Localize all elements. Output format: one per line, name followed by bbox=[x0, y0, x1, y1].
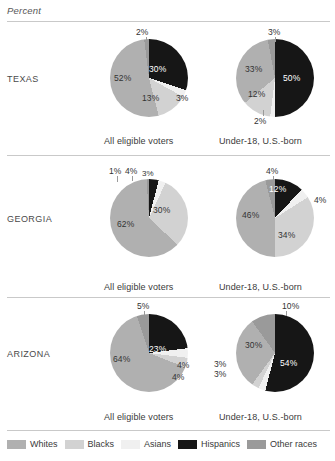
slice-label-asians: 3% bbox=[176, 93, 189, 103]
legend-swatch-asians bbox=[121, 440, 140, 449]
slice-label-blacks: 12% bbox=[248, 89, 265, 99]
column-caption-all-eligible-voters: All eligible voters bbox=[104, 136, 173, 146]
slice-label-whites: 64% bbox=[113, 354, 130, 364]
legend-label-other-races: Other races bbox=[270, 439, 317, 449]
slice-label-blacks: 34% bbox=[278, 230, 295, 240]
divider-legend bbox=[7, 430, 330, 431]
legend-item-other-races: Other races bbox=[247, 439, 317, 449]
slice-label-whites: 33% bbox=[245, 64, 262, 74]
legend-swatch-other-races bbox=[247, 440, 266, 449]
slice-label-other-races: 2% bbox=[136, 27, 149, 37]
column-caption-under-18-us-born: Under-18, U.S.-born bbox=[219, 136, 302, 146]
slice-label-hispanics: 50% bbox=[283, 73, 300, 83]
panel-georgia-under-18-us-born: 12% 4% 34% 46% 4% Under-18, U.S.-born bbox=[212, 167, 335, 267]
slice-label-whites: 52% bbox=[114, 73, 131, 83]
legend: Whites Blacks Asians Hispanics Other rac… bbox=[7, 437, 324, 451]
column-caption-all-eligible-voters: All eligible voters bbox=[104, 412, 173, 422]
leader-line-hispanics bbox=[132, 176, 133, 181]
slice-label-other-races: 3% bbox=[268, 27, 281, 37]
chart-row-georgia: GEORGIA 4% 3% 30% 62% 1% All eligible vo… bbox=[0, 156, 335, 297]
pie-chart-figure: Percent TEXAS 30% 3% 13% 52% 2% All elig… bbox=[0, 0, 335, 461]
row-label-arizona: ARIZONA bbox=[7, 349, 50, 359]
slice-label-other-races: 4% bbox=[266, 166, 279, 176]
legend-swatch-blacks bbox=[65, 440, 84, 449]
leader-line-other-races bbox=[117, 176, 118, 182]
slice-label-hispanics: 54% bbox=[280, 358, 297, 368]
slice-label-asians: 4% bbox=[177, 360, 190, 370]
row-label-georgia: GEORGIA bbox=[7, 214, 52, 224]
slice-label-hispanics: 30% bbox=[149, 64, 166, 74]
chart-row-arizona: ARIZONA 23% 4% 4% 64% 5% All eligible vo… bbox=[0, 298, 335, 430]
leader-line-other-races bbox=[146, 37, 147, 43]
column-caption-under-18-us-born: Under-18, U.S.-born bbox=[219, 282, 302, 292]
slice-label-other-races: 1% bbox=[109, 166, 122, 176]
slice-label-asians: 3% bbox=[142, 169, 154, 178]
chart-row-texas: TEXAS 30% 3% 13% 52% 2% All eligible vot… bbox=[0, 22, 335, 155]
leader-line-other-races bbox=[286, 311, 287, 316]
legend-item-whites: Whites bbox=[7, 439, 58, 449]
unit-label: Percent bbox=[7, 5, 41, 16]
column-caption-under-18-us-born: Under-18, U.S.-born bbox=[219, 412, 302, 422]
leader-line-other-races bbox=[273, 176, 274, 181]
slice-label-other-races: 5% bbox=[137, 301, 150, 311]
legend-item-hispanics: Hispanics bbox=[178, 439, 240, 449]
slice-label-whites: 30% bbox=[245, 340, 262, 350]
panel-georgia-all-eligible-voters: 4% 3% 30% 62% 1% All eligible voters bbox=[92, 167, 210, 267]
slice-label-hispanics: 23% bbox=[149, 344, 166, 354]
slice-label-blacks: 13% bbox=[142, 93, 159, 103]
leader-line-other-races bbox=[275, 37, 276, 42]
slice-label-blacks: 30% bbox=[153, 205, 170, 215]
slice-label-asians: 3% bbox=[214, 369, 227, 379]
legend-item-asians: Asians bbox=[121, 439, 171, 449]
column-caption-all-eligible-voters: All eligible voters bbox=[104, 282, 173, 292]
legend-label-hispanics: Hispanics bbox=[201, 439, 240, 449]
panel-arizona-under-18-us-born: 54% 3% 3% 30% 10% Under-18, U.S.-born bbox=[212, 302, 335, 402]
pie-georgia-all-eligible-voters bbox=[110, 179, 188, 257]
slice-label-whites: 62% bbox=[117, 219, 134, 229]
legend-label-asians: Asians bbox=[144, 439, 171, 449]
legend-swatch-whites bbox=[7, 440, 26, 449]
slice-label-blacks: 3% bbox=[214, 359, 227, 369]
panel-arizona-all-eligible-voters: 23% 4% 4% 64% 5% All eligible voters bbox=[92, 302, 210, 402]
slice-label-asians: 2% bbox=[254, 116, 267, 126]
leader-line-asians bbox=[263, 110, 264, 116]
legend-label-whites: Whites bbox=[30, 439, 58, 449]
legend-label-blacks: Blacks bbox=[88, 439, 115, 449]
legend-swatch-hispanics bbox=[178, 440, 197, 449]
panel-texas-all-eligible-voters: 30% 3% 13% 52% 2% All eligible voters bbox=[92, 27, 210, 127]
row-label-texas: TEXAS bbox=[7, 74, 39, 84]
legend-item-blacks: Blacks bbox=[65, 439, 115, 449]
leader-line-other-races bbox=[144, 311, 145, 317]
panel-texas-under-18-us-born: 50% 2% 12% 33% 3% Under-18, U.S.-born bbox=[212, 27, 335, 127]
slice-label-hispanics: 12% bbox=[269, 184, 286, 194]
slice-label-blacks: 4% bbox=[172, 372, 185, 382]
slice-label-asians: 4% bbox=[314, 195, 327, 205]
slice-label-other-races: 10% bbox=[282, 301, 299, 311]
pie-arizona-under-18-us-born bbox=[236, 314, 314, 392]
slice-label-whites: 46% bbox=[242, 210, 259, 220]
pie-texas-under-18-us-born bbox=[236, 39, 314, 117]
slice-label-hispanics: 4% bbox=[125, 166, 138, 176]
